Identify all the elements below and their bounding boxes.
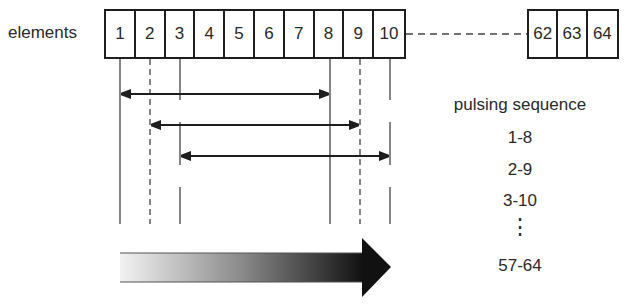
pulsing-sequence-title: pulsing sequence xyxy=(430,95,610,115)
span-arrows xyxy=(122,94,388,156)
pulsing-sequence-ellipsis: ⋮ xyxy=(430,212,610,242)
pulsing-sequence-last: 57-64 xyxy=(430,256,610,276)
gradient-direction-arrow xyxy=(120,238,391,297)
pulsing-sequence-item: 2-9 xyxy=(430,160,610,180)
pulsing-sequence-item: 3-10 xyxy=(430,191,610,211)
pulsing-sequence-item: 1-8 xyxy=(430,128,610,148)
guide-lines xyxy=(120,59,390,224)
